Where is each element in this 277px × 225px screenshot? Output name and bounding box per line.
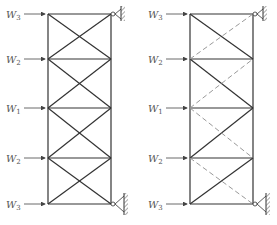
svg-text:W2: W2: [6, 54, 21, 67]
svg-text:W3: W3: [6, 9, 21, 22]
right-dashed-diagonals: [190, 14, 253, 204]
left-bottom-support: [111, 193, 128, 215]
right-loads: [166, 14, 187, 204]
right-top-support: [253, 6, 267, 21]
left-load-labels: W3 W2 W1 W2 W3: [6, 9, 21, 212]
right-bottom-support: [253, 193, 270, 215]
svg-text:W1: W1: [148, 103, 163, 116]
left-truss: [48, 14, 111, 204]
svg-text:W2: W2: [6, 153, 21, 166]
svg-text:W2: W2: [148, 54, 163, 67]
svg-text:W3: W3: [148, 199, 163, 212]
truss-diagram: W3 W2 W1 W2 W3: [0, 0, 277, 225]
right-load-labels: W3 W2 W1 W2 W3: [148, 9, 163, 212]
left-loads: [24, 14, 45, 204]
left-top-support: [111, 6, 125, 21]
svg-text:W3: W3: [6, 199, 21, 212]
right-truss: [190, 14, 253, 204]
svg-text:W3: W3: [148, 9, 163, 22]
svg-text:W1: W1: [6, 103, 21, 116]
svg-text:W2: W2: [148, 153, 163, 166]
